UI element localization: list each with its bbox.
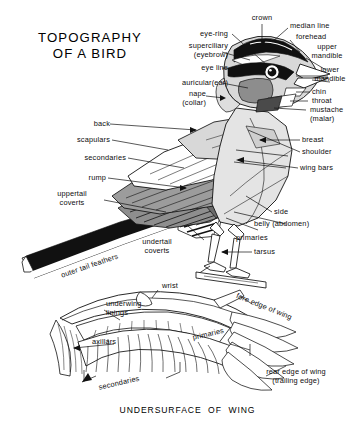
label-eye-line: eye line: [168, 64, 228, 73]
axillars-shape: [50, 320, 71, 376]
left-foot: [204, 262, 226, 272]
label-forehead: forehead: [296, 33, 326, 42]
label-back: back: [60, 120, 110, 129]
label-wing-bars: wing bars: [300, 164, 333, 173]
label-undertail-coverts: undertail coverts: [128, 238, 186, 255]
label-side: side: [274, 208, 288, 217]
eye-pupil: [268, 68, 277, 77]
label-superciliary: superciliary (eyebrow): [162, 42, 228, 59]
figure-title: TOPOGRAPHY OF A BIRD: [20, 30, 160, 62]
left-tarsus: [208, 234, 220, 262]
label-underwing-linings: underwing linings: [106, 300, 141, 317]
label-rump: rump: [58, 174, 106, 183]
label-upper-mandible: upper mandible: [298, 43, 356, 60]
label-secondaries-body: secondaries: [48, 154, 126, 163]
figure-caption: UNDERSURFACE OF WING: [95, 405, 280, 415]
label-breast: breast: [302, 136, 323, 145]
label-eye-ring: eye-ring: [168, 30, 228, 39]
label-shoulder: shoulder: [302, 148, 332, 157]
label-uppertail-coverts: uppertail coverts: [42, 190, 102, 207]
eye-highlight: [269, 69, 272, 72]
label-auricular: auricular(ear): [150, 79, 228, 88]
label-lower-mandible: lower mandible: [302, 66, 358, 83]
label-crown: crown: [236, 14, 288, 23]
label-tarsus: tarsus: [254, 248, 275, 257]
label-nape: nape (collar): [150, 90, 206, 107]
label-wrist: wrist: [162, 282, 178, 291]
label-axillars: axillars: [92, 338, 116, 347]
label-scapulars: scapulars: [42, 136, 110, 145]
label-rear-edge-of-wing: rear edge of wing (trailing edge): [240, 368, 352, 385]
label-median-line: median line: [290, 22, 329, 31]
label-mustache: mustache (malar): [310, 106, 343, 123]
bird-topography-figure: TOPOGRAPHY OF A BIRD crown median line f…: [0, 0, 358, 427]
label-belly: belly (abdomen): [254, 220, 309, 229]
label-primaries-body: primaries: [236, 234, 268, 243]
